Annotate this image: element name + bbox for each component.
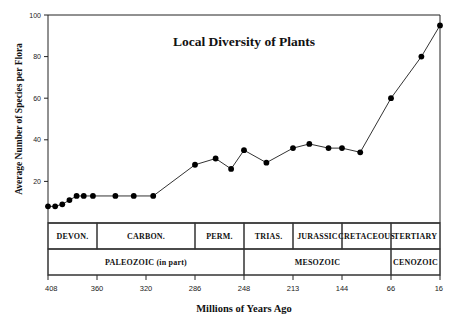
y-tick-label-40: 40 bbox=[33, 136, 41, 143]
era-row: PALEOZOIC (in part)MESOZOICCENOZOIC bbox=[48, 249, 440, 275]
data-point bbox=[241, 147, 247, 153]
x-tick-label-213: 213 bbox=[287, 284, 300, 293]
x-axis-title: Millions of Years Ago bbox=[196, 303, 292, 314]
data-point bbox=[150, 193, 156, 199]
data-point bbox=[74, 193, 80, 199]
timescale-label: CRETACEOUS bbox=[338, 232, 395, 241]
data-point bbox=[213, 156, 219, 162]
y-axis-ticks: 20406080100 bbox=[29, 12, 48, 185]
data-point bbox=[59, 201, 65, 207]
diversity-line-chart: 20406080100 4083603202862482131446616 Lo… bbox=[0, 0, 462, 322]
data-point bbox=[112, 193, 118, 199]
y-tick-label-80: 80 bbox=[33, 53, 41, 60]
data-point bbox=[228, 166, 234, 172]
data-point bbox=[131, 193, 137, 199]
x-tick-label-286: 286 bbox=[189, 284, 202, 293]
data-point bbox=[45, 203, 51, 209]
timescale-label: CARBON. bbox=[127, 232, 165, 241]
data-point bbox=[306, 141, 312, 147]
x-tick-label-248: 248 bbox=[238, 284, 251, 293]
series-markers-plants bbox=[45, 23, 443, 210]
x-tick-label-16: 16 bbox=[435, 284, 443, 293]
timescale-label: TRIAS. bbox=[255, 232, 283, 241]
timescale-label: PALEOZOIC (in part) bbox=[105, 258, 187, 267]
data-point bbox=[357, 149, 363, 155]
timescale-label: MESOZOIC bbox=[295, 258, 341, 267]
x-tick-label-408: 408 bbox=[45, 284, 58, 293]
geologic-timescale-table: DEVON.CARBON.PERM.TRIAS.JURASSICCRETACEO… bbox=[48, 223, 440, 275]
x-tick-label-320: 320 bbox=[140, 284, 153, 293]
y-tick-label-20: 20 bbox=[33, 178, 41, 185]
timescale-label: JURASSIC bbox=[297, 232, 338, 241]
data-point bbox=[81, 193, 87, 199]
data-point bbox=[339, 145, 345, 151]
data-point bbox=[388, 95, 394, 101]
chart-figure: 20406080100 4083603202862482131446616 Lo… bbox=[0, 0, 462, 322]
data-point bbox=[418, 54, 424, 60]
timescale-label: CENOZOIC bbox=[393, 258, 438, 267]
data-series-group bbox=[45, 23, 443, 210]
y-tick-label-100: 100 bbox=[29, 12, 41, 19]
period-row: DEVON.CARBON.PERM.TRIAS.JURASSICCRETACEO… bbox=[48, 223, 440, 249]
timescale-label: DEVON. bbox=[57, 232, 89, 241]
x-tick-label-66: 66 bbox=[387, 284, 395, 293]
x-tick-label-144: 144 bbox=[336, 284, 349, 293]
data-point bbox=[90, 193, 96, 199]
data-point bbox=[67, 197, 73, 203]
data-point bbox=[52, 203, 58, 209]
y-axis-title: Average Number of Species per Flora bbox=[14, 43, 24, 195]
y-tick-label-60: 60 bbox=[33, 95, 41, 102]
chart-title: Local Diversity of Plants bbox=[173, 34, 315, 49]
timescale-label: PERM. bbox=[206, 232, 233, 241]
data-point bbox=[437, 23, 443, 29]
series-line-plants bbox=[48, 25, 440, 206]
data-point bbox=[192, 162, 198, 168]
data-point bbox=[326, 145, 332, 151]
x-tick-label-360: 360 bbox=[91, 284, 104, 293]
data-point bbox=[290, 145, 296, 151]
x-axis-ticks: 4083603202862482131446616 bbox=[45, 275, 443, 293]
timescale-label: TERTIARY bbox=[394, 232, 437, 241]
data-point bbox=[264, 160, 270, 166]
